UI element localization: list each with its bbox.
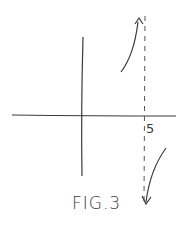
asymptote-label: 5: [146, 121, 154, 136]
y-axis: [82, 37, 83, 176]
upper-curve: [121, 22, 138, 72]
upper-arrowhead-icon: [135, 18, 143, 24]
figure-caption: FIG.3: [72, 193, 121, 213]
asymptote-line: [144, 16, 145, 204]
x-axis: [12, 115, 176, 116]
lower-curve: [146, 148, 166, 202]
